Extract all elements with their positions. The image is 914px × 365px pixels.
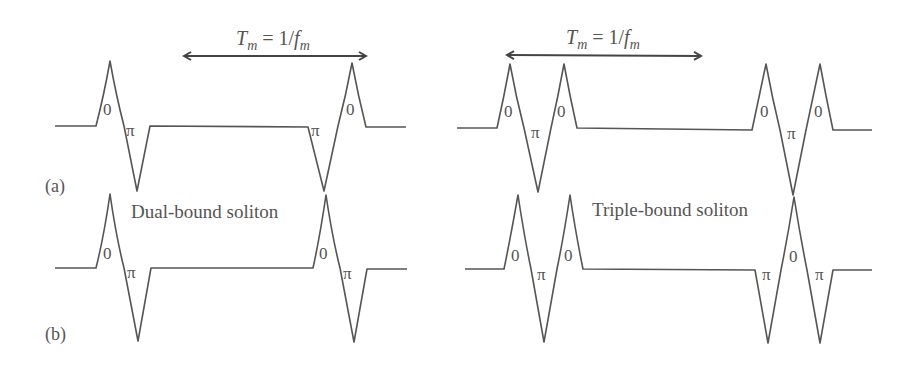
panel-label-b: (b)	[45, 324, 66, 345]
phase-label-zero: 0	[564, 246, 573, 265]
phase-label-zero: 0	[319, 244, 328, 263]
phase-label-zero: 0	[789, 247, 798, 266]
right-panel-a-waveform	[457, 64, 872, 195]
left-panel-a-waveform	[55, 61, 406, 191]
phase-label-zero: 0	[814, 102, 823, 121]
phase-label-zero: 0	[346, 100, 355, 119]
right-period-label: Tm = 1/fm	[566, 26, 640, 52]
phase-label-zero: 0	[557, 102, 566, 121]
phase-label-pi: π	[531, 123, 540, 142]
phase-label-zero: 0	[504, 102, 513, 121]
phase-label-pi: π	[815, 265, 824, 284]
phase-label-zero: 0	[511, 246, 520, 265]
phase-label-pi: π	[126, 121, 135, 140]
left-period-label: Tm = 1/fm	[236, 27, 310, 53]
phase-label-pi: π	[127, 263, 136, 282]
phase-label-pi: π	[537, 265, 546, 284]
bound-soliton-diagram: Tm = 1/fm 0 π π 0 (a) Dual-bound soliton…	[0, 0, 914, 365]
phase-label-zero: 0	[760, 102, 769, 121]
phase-label-pi: π	[787, 124, 796, 143]
phase-label-pi: π	[311, 121, 320, 140]
panel-label-a: (a)	[45, 176, 65, 197]
phase-label-pi: π	[762, 265, 771, 284]
phase-label-pi: π	[343, 264, 352, 283]
right-period-arrow	[507, 55, 701, 56]
right-title: Triple-bound soliton	[592, 199, 749, 220]
phase-label-zero: 0	[103, 244, 112, 263]
left-title: Dual-bound soliton	[131, 201, 279, 222]
phase-label-zero: 0	[103, 100, 112, 119]
